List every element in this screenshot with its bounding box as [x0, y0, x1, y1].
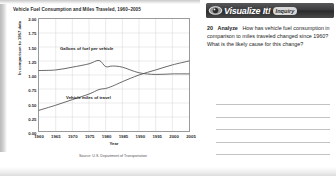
- series-line-gallons-of-fuel-per-vehicle: [39, 60, 189, 74]
- x-tick-1985: 1985: [119, 134, 129, 139]
- x-axis-label: Year: [38, 141, 190, 146]
- x-tick-2005: 2005: [186, 134, 196, 139]
- answer-line[interactable]: [216, 129, 330, 130]
- y-tick-0.50: 0.50: [28, 102, 36, 107]
- y-tick-1.50: 1.50: [28, 45, 36, 50]
- y-tick-1.75: 1.75: [28, 31, 36, 36]
- chart-figure: Vehicle Fuel Consumption and Miles Trave…: [8, 2, 198, 168]
- x-tick-1970: 1970: [68, 134, 78, 139]
- visualize-it-banner: Visualize It! Inquiry: [206, 3, 334, 18]
- x-tick-1980: 1980: [102, 134, 112, 139]
- x-tick-1975: 1975: [85, 134, 95, 139]
- answer-line[interactable]: [216, 117, 330, 118]
- x-tick-1960: 1960: [34, 134, 44, 139]
- answer-lines: [216, 104, 330, 167]
- textbook-page: Vehicle Fuel Consumption and Miles Trave…: [0, 0, 336, 176]
- series-label-vehicle-miles-of-travel: Vehicle miles of travel: [66, 95, 111, 100]
- y-tick-0.75: 0.75: [28, 88, 36, 93]
- x-tick-2000: 2000: [169, 134, 179, 139]
- question-block: 20 Analyze How has vehicle fuel consumpt…: [207, 24, 333, 49]
- y-tick-0.25: 0.25: [28, 116, 36, 121]
- chart-source: Source: U.S. Department of Transportatio…: [28, 154, 198, 158]
- eye-icon: [207, 4, 224, 17]
- chart-curves: [39, 19, 189, 131]
- chart-title: Vehicle Fuel Consumption and Miles Trave…: [13, 7, 193, 12]
- inquiry-badge: Inquiry: [273, 7, 298, 15]
- y-tick-2.00: 2.00: [28, 17, 36, 22]
- plot-area: 0.000.250.500.751.001.251.501.752.00 196…: [38, 18, 190, 132]
- series-label-gallons-of-fuel-per-vehicle: Gallons of fuel per vehicle: [60, 46, 114, 51]
- question-number: 20: [207, 25, 213, 31]
- x-tick-1990: 1990: [136, 134, 146, 139]
- y-tick-1.25: 1.25: [28, 59, 36, 64]
- answer-line[interactable]: [216, 104, 330, 105]
- answer-line[interactable]: [216, 154, 330, 155]
- page-edge-left: [0, 0, 7, 152]
- banner-title: Visualize It!: [224, 6, 271, 16]
- answer-line[interactable]: [216, 142, 330, 143]
- question-verb: Analyze: [218, 25, 238, 31]
- inquiry-panel: Visualize It! Inquiry 20 Analyze How has…: [200, 0, 336, 176]
- y-axis-label: In comparison to 1967 data: [17, 21, 22, 75]
- y-tick-1.00: 1.00: [28, 74, 36, 79]
- x-tick-1965: 1965: [51, 134, 61, 139]
- x-tick-1995: 1995: [152, 134, 162, 139]
